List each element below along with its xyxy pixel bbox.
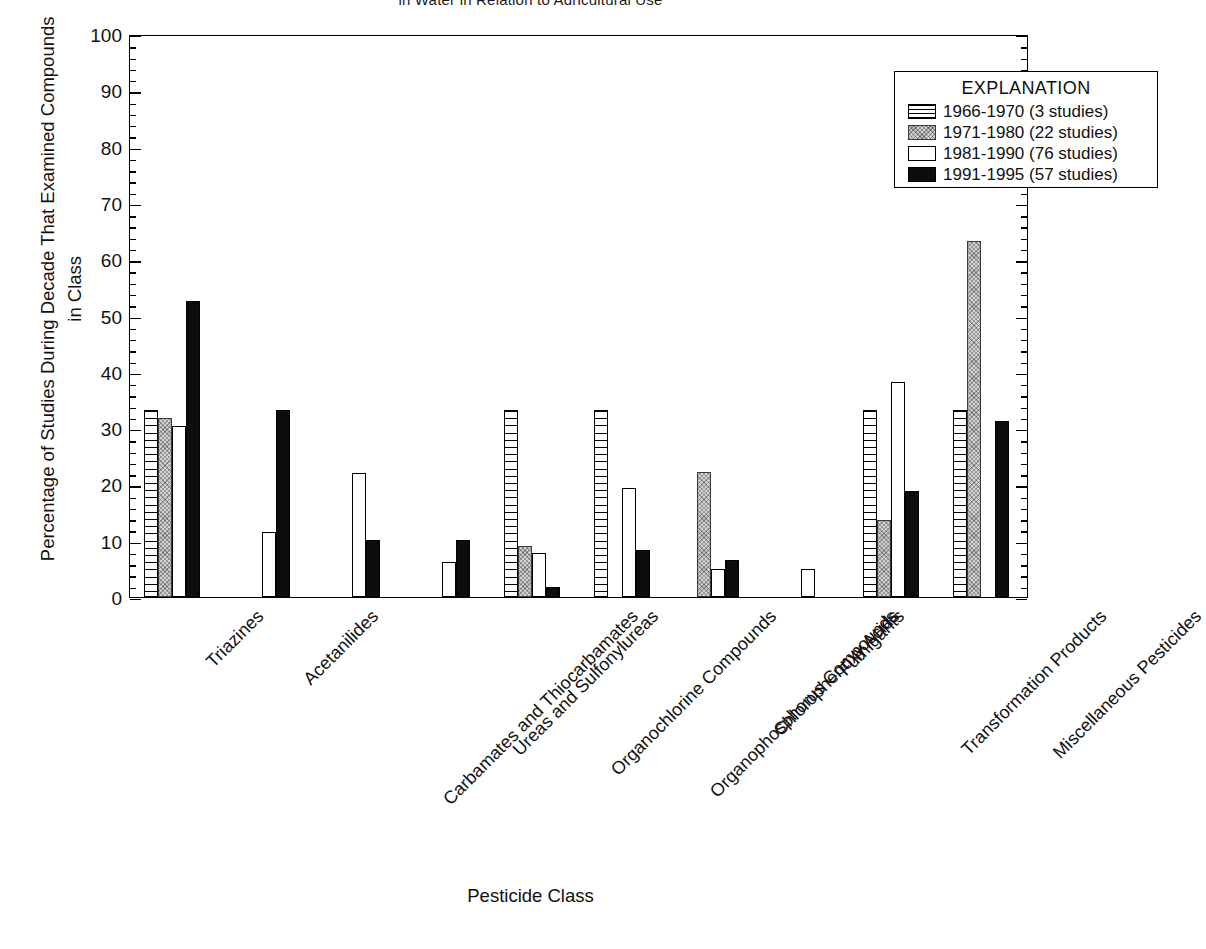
y-minor-tick xyxy=(130,475,136,476)
y-minor-tick xyxy=(130,295,136,296)
y-minor-tick xyxy=(1021,419,1027,420)
x-axis-category-labels: TriazinesAcetanilidesCarbamates and Thio… xyxy=(0,606,1061,836)
bar xyxy=(697,472,711,597)
y-minor-tick xyxy=(130,408,136,409)
y-minor-tick xyxy=(130,126,136,127)
bar xyxy=(518,546,532,597)
y-minor-tick xyxy=(130,419,136,420)
legend-title: EXPLANATION xyxy=(895,78,1157,99)
legend-swatch-white-icon xyxy=(908,146,936,161)
y-minor-tick xyxy=(130,59,136,60)
y-minor-tick xyxy=(130,509,136,510)
y-major-tick xyxy=(1016,599,1027,600)
y-minor-tick xyxy=(130,216,136,217)
y-minor-tick xyxy=(1021,216,1027,217)
y-minor-tick xyxy=(130,70,136,71)
y-minor-tick xyxy=(1021,509,1027,510)
y-tick-label: 0 xyxy=(111,589,122,608)
x-category-label: Fumigants xyxy=(835,606,909,680)
bar xyxy=(442,562,456,597)
bar xyxy=(456,540,470,597)
bar xyxy=(186,301,200,597)
x-category-label: Acetanilides xyxy=(299,606,382,689)
y-major-tick xyxy=(130,92,141,93)
bar xyxy=(546,587,560,597)
y-minor-tick xyxy=(130,531,136,532)
y-major-tick xyxy=(130,318,141,319)
y-minor-tick xyxy=(1021,475,1027,476)
y-major-tick xyxy=(130,205,141,206)
y-minor-tick xyxy=(1021,531,1027,532)
bar xyxy=(725,560,739,597)
y-major-tick xyxy=(130,543,141,544)
y-minor-tick xyxy=(130,565,136,566)
legend-entry: 1991-1995 (57 studies) xyxy=(895,164,1157,185)
y-tick-label: 100 xyxy=(90,26,122,45)
bar xyxy=(276,410,290,597)
y-minor-tick xyxy=(1021,464,1027,465)
legend-swatch-hatch-icon xyxy=(908,104,936,119)
y-tick-label: 10 xyxy=(101,532,122,551)
legend-swatch-black-icon xyxy=(908,167,936,182)
y-major-tick xyxy=(130,486,141,487)
y-major-tick xyxy=(130,261,141,262)
y-minor-tick xyxy=(130,272,136,273)
y-minor-tick xyxy=(1021,520,1027,521)
y-major-tick xyxy=(1016,261,1027,262)
y-minor-tick xyxy=(130,194,136,195)
y-minor-tick xyxy=(1021,498,1027,499)
y-minor-tick xyxy=(130,351,136,352)
y-minor-tick xyxy=(130,576,136,577)
legend-entry-label: 1971-1980 (22 studies) xyxy=(943,123,1118,143)
y-minor-tick xyxy=(130,171,136,172)
x-axis-title-text: Pesticide Class xyxy=(467,885,593,906)
y-minor-tick xyxy=(130,137,136,138)
y-minor-tick xyxy=(130,464,136,465)
y-minor-tick xyxy=(130,340,136,341)
plot-area: EXPLANATION 1966-1970 (3 studies)1971-19… xyxy=(129,35,1028,598)
y-tick-label: 80 xyxy=(101,138,122,157)
bar xyxy=(262,532,276,597)
y-tick-label: 90 xyxy=(101,82,122,101)
y-minor-tick xyxy=(1021,284,1027,285)
y-minor-tick xyxy=(1021,329,1027,330)
x-axis-title: Pesticide Class xyxy=(0,885,1061,907)
y-major-tick xyxy=(1016,374,1027,375)
y-major-tick xyxy=(130,430,141,431)
y-minor-tick xyxy=(1021,194,1027,195)
y-major-tick xyxy=(1016,36,1027,37)
y-minor-tick xyxy=(130,498,136,499)
y-tick-label: 60 xyxy=(101,251,122,270)
bar xyxy=(144,410,158,597)
bar xyxy=(532,553,546,597)
y-minor-tick xyxy=(130,239,136,240)
legend-entry-label: 1966-1970 (3 studies) xyxy=(943,102,1108,122)
y-major-tick xyxy=(130,599,141,600)
bar xyxy=(877,520,891,597)
y-minor-tick xyxy=(130,588,136,589)
y-minor-tick xyxy=(1021,239,1027,240)
bar xyxy=(967,241,981,597)
bar xyxy=(622,488,636,597)
y-major-tick xyxy=(1016,486,1027,487)
y-minor-tick xyxy=(1021,396,1027,397)
y-minor-tick xyxy=(130,385,136,386)
y-minor-tick xyxy=(130,115,136,116)
y-major-tick xyxy=(1016,205,1027,206)
legend-box: EXPLANATION 1966-1970 (3 studies)1971-19… xyxy=(894,71,1158,188)
y-minor-tick xyxy=(1021,59,1027,60)
y-tick-label: 50 xyxy=(101,307,122,326)
figure-top-title-partial: in Water in Relation to Agricultural Use xyxy=(0,0,1061,5)
y-tick-label: 30 xyxy=(101,420,122,439)
y-major-tick xyxy=(130,149,141,150)
y-minor-tick xyxy=(130,81,136,82)
y-minor-tick xyxy=(130,284,136,285)
bar xyxy=(594,410,608,597)
y-tick-label: 20 xyxy=(101,476,122,495)
y-minor-tick xyxy=(1021,565,1027,566)
y-minor-tick xyxy=(130,441,136,442)
y-minor-tick xyxy=(1021,306,1027,307)
bar xyxy=(172,426,186,597)
x-category-label: Triazines xyxy=(202,606,268,672)
